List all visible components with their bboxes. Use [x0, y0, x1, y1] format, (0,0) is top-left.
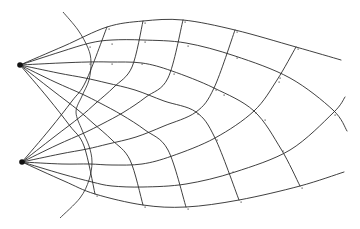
upper-source-rays — [20, 19, 347, 207]
node-tick-mark — [279, 82, 280, 83]
node-tick-mark — [112, 64, 113, 65]
node-tick-mark — [233, 172, 234, 173]
upper-ray-line — [20, 62, 300, 186]
node-tick-mark — [298, 49, 299, 50]
node-tick-mark — [145, 42, 146, 43]
upper-source-point — [17, 62, 23, 68]
node-tick-mark — [283, 151, 284, 152]
node-tick-mark — [241, 202, 242, 203]
node-tick-mark — [145, 23, 146, 24]
lower-ray-line — [22, 30, 235, 162]
node-tick-mark — [90, 47, 91, 48]
diagram-canvas — [0, 0, 360, 229]
upper-ray-line — [20, 65, 186, 207]
outer-wavefront-arc — [60, 12, 92, 218]
node-tick-mark — [188, 209, 189, 210]
upper-ray-line — [20, 65, 95, 194]
outer-arc-line — [60, 12, 92, 218]
upper-ray-line — [20, 40, 347, 131]
node-tick-mark — [224, 95, 225, 96]
node-tick-mark — [265, 120, 266, 121]
node-tick-mark — [280, 78, 281, 79]
node-tick-mark — [302, 188, 303, 189]
node-tick-mark — [216, 90, 217, 91]
node-tick-mark — [217, 140, 218, 141]
node-tick-mark — [335, 115, 336, 116]
node-tick-mark — [109, 29, 110, 30]
node-tick-mark — [142, 64, 143, 65]
ray-grid-svg — [0, 0, 360, 229]
node-tick-mark — [174, 74, 175, 75]
node-tick-mark — [188, 46, 189, 47]
lower-ray-line — [22, 97, 345, 187]
node-tick-mark — [237, 58, 238, 59]
point-sources — [17, 62, 25, 165]
node-tick-mark — [112, 44, 113, 45]
node-tick-mark — [90, 64, 91, 65]
node-tick-mark — [198, 114, 199, 115]
node-tick-mark — [237, 32, 238, 33]
node-tick-mark — [145, 207, 146, 208]
node-tick-mark — [97, 196, 98, 197]
lower-source-point — [19, 159, 25, 165]
node-tick-mark — [185, 22, 186, 23]
lower-ray-line — [22, 47, 296, 165]
node-tick-mark — [256, 113, 257, 114]
node-tick-marks — [90, 22, 336, 210]
lower-ray-line — [22, 20, 183, 162]
